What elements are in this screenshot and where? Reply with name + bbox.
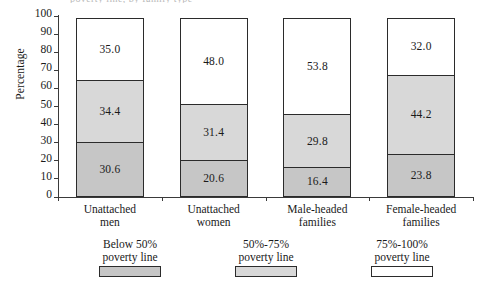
bar-segment[interactable]: 16.4 [283,167,351,197]
x-axis-tick-mark [58,197,59,201]
x-axis-category-label: Female-headed families [369,203,473,229]
bar-segment-value-label: 30.6 [99,164,120,176]
x-axis-tick-mark [162,197,163,201]
stacked-bar-chart: Percentage 0102030405060708090100 30.634… [0,0,481,232]
bar-segment[interactable]: 30.6 [76,142,144,197]
stacked-bar[interactable]: 23.844.232.0 [387,16,455,197]
bar-segment[interactable]: 31.4 [180,104,248,161]
plot-area: 30.634.435.020.631.448.016.429.853.823.8… [58,16,473,197]
y-axis-tick-label: 0 [46,189,52,201]
y-axis-ticks: 0102030405060708090100 [18,16,58,197]
bar-segment-value-label: 34.4 [99,106,120,118]
bar-segment[interactable]: 48.0 [180,18,248,105]
x-axis-category-label: Unattached women [162,203,266,229]
bar-segment-value-label: 20.6 [203,173,224,185]
legend-item-swatch [371,266,433,277]
legend-item[interactable]: 50%-75% poverty line [216,238,316,277]
bar-segment-value-label: 48.0 [203,56,224,68]
bar-segment-value-label: 35.0 [99,44,120,56]
bar-segment[interactable]: 32.0 [387,18,455,76]
stacked-bar[interactable]: 20.631.448.0 [180,16,248,197]
stacked-bar[interactable]: 30.634.435.0 [76,16,144,197]
y-axis-tick-label: 40 [41,117,53,129]
y-axis-tick-label: 20 [41,153,53,165]
chart-legend: Below 50% poverty line50%-75% poverty li… [0,238,481,283]
x-axis-category-label: Male-headed families [266,203,370,229]
bar-segment[interactable]: 35.0 [76,18,144,81]
y-axis-tick-label: 60 [41,80,53,92]
legend-item[interactable]: Below 50% poverty line [80,238,180,277]
y-axis-tick-label: 30 [41,135,53,147]
bar-segment-value-label: 29.8 [307,136,328,148]
x-axis-tick-mark [266,197,267,201]
bar-segment[interactable]: 20.6 [180,160,248,197]
legend-item-swatch [235,266,297,277]
bar-segment[interactable]: 23.8 [387,154,455,197]
y-axis-tick-label: 100 [35,8,52,20]
x-axis-tick-mark [473,197,474,201]
bar-group: 30.634.435.0 [76,16,144,197]
legend-item-label: 50%-75% poverty line [216,238,316,264]
bar-segment-value-label: 23.8 [411,170,432,182]
bar-segment-value-label: 53.8 [307,61,328,73]
bar-group: 16.429.853.8 [283,16,351,197]
legend-item-swatch [99,266,161,277]
bar-segment-value-label: 16.4 [307,176,328,188]
y-axis-tick-label: 10 [41,171,53,183]
y-axis-tick-label: 50 [41,99,53,111]
bar-segment-value-label: 32.0 [411,41,432,53]
bar-group: 23.844.232.0 [387,16,455,197]
bar-segment-value-label: 31.4 [203,127,224,139]
bar-segment[interactable]: 44.2 [387,75,455,155]
bar-segment[interactable]: 53.8 [283,18,351,115]
legend-item-label: Below 50% poverty line [80,238,180,264]
stacked-bar[interactable]: 16.429.853.8 [283,16,351,197]
x-axis-category-label: Unattached men [58,203,162,229]
y-axis-tick-label: 80 [41,44,53,56]
x-axis-tick-mark [369,197,370,201]
legend-item-label: 75%-100% poverty line [352,238,452,264]
bar-segment[interactable]: 34.4 [76,80,144,142]
bar-segment[interactable]: 29.8 [283,114,351,168]
y-axis-tick-label: 70 [41,62,53,74]
legend-item[interactable]: 75%-100% poverty line [352,238,452,277]
bar-group: 20.631.448.0 [180,16,248,197]
y-axis-tick-label: 90 [41,26,53,38]
bar-segment-value-label: 44.2 [411,109,432,121]
